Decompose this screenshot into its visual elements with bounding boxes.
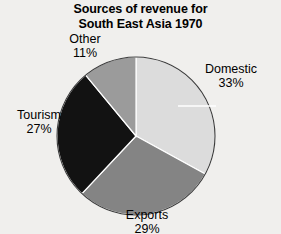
slice-label-domestic: Domestic 33% xyxy=(196,62,266,90)
slice-label-domestic-name: Domestic xyxy=(205,62,257,76)
slice-label-exports-value: 29% xyxy=(116,222,178,234)
slice-label-domestic-value: 33% xyxy=(196,76,266,90)
slice-label-other: Other 11% xyxy=(58,32,112,60)
slice-label-other-value: 11% xyxy=(58,46,112,60)
slice-label-tourism-name: Tourism xyxy=(17,108,61,122)
pie-slices xyxy=(57,57,215,215)
slice-label-other-name: Other xyxy=(69,32,100,46)
slice-label-exports-name: Exports xyxy=(126,208,168,222)
slice-label-exports: Exports 29% xyxy=(116,208,178,234)
slice-label-tourism-value: 27% xyxy=(8,122,70,136)
pie-chart: Sources of revenue for South East Asia 1… xyxy=(0,0,281,234)
slice-label-tourism: Tourism 27% xyxy=(8,108,70,136)
